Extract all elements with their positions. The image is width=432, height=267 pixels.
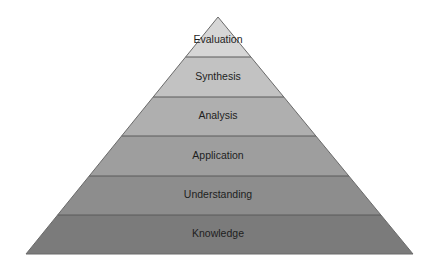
level-label-evaluation: Evaluation [193, 33, 242, 45]
level-label-knowledge: Knowledge [192, 227, 244, 239]
level-label-synthesis: Synthesis [195, 70, 241, 82]
pyramid-diagram: Evaluation Synthesis Analysis Applicatio… [0, 0, 432, 267]
level-label-application: Application [192, 149, 244, 161]
level-label-analysis: Analysis [198, 109, 237, 121]
level-label-understanding: Understanding [184, 188, 252, 200]
